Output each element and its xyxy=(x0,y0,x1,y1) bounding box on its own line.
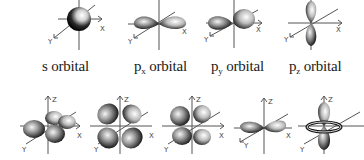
label-px-orbital: px orbital xyxy=(134,58,187,76)
svg-text:X: X xyxy=(219,132,224,140)
svg-text:X: X xyxy=(149,132,154,140)
svg-text:Y: Y xyxy=(21,146,27,154)
d-orbital-diagram-4: Z X Y xyxy=(228,92,298,156)
svg-text:Y: Y xyxy=(93,146,99,154)
svg-text:X: X xyxy=(256,26,261,34)
s-orbital-diagram: X Y xyxy=(40,0,110,52)
py-orbital-diagram: X Y xyxy=(200,0,270,52)
svg-text:X: X xyxy=(100,25,105,33)
label-pz-orbital: pz orbital xyxy=(289,58,341,76)
d-orbital-diagram-3: Z X Y xyxy=(158,92,228,156)
label-suffix: orbital xyxy=(300,58,341,74)
d-orbital-diagram-5: Z Y xyxy=(296,92,364,156)
label-s-orbital: s orbital xyxy=(42,58,89,75)
svg-text:Z: Z xyxy=(124,96,129,104)
svg-text:X: X xyxy=(286,132,291,140)
label-suffix: orbital xyxy=(48,58,89,74)
pz-orbital-diagram: X Y xyxy=(280,0,350,52)
label-suffix: orbital xyxy=(146,58,187,74)
svg-text:Y: Y xyxy=(47,38,53,46)
svg-text:Z: Z xyxy=(328,96,333,104)
svg-text:Y: Y xyxy=(243,142,249,150)
d-orbital-diagram-1: Z X Y xyxy=(14,92,84,156)
d-orbital-diagram-2: Z X Y xyxy=(86,92,156,156)
svg-text:Y: Y xyxy=(163,146,169,154)
label-py-orbital: py orbital xyxy=(211,58,264,76)
svg-text:Z: Z xyxy=(268,98,273,106)
svg-text:Y: Y xyxy=(283,36,289,44)
svg-text:Y: Y xyxy=(299,146,305,154)
svg-text:X: X xyxy=(77,132,82,140)
label-suffix: orbital xyxy=(223,58,264,74)
svg-text:Y: Y xyxy=(203,36,209,44)
svg-text:X: X xyxy=(336,26,341,34)
svg-text:Z: Z xyxy=(52,96,57,104)
svg-text:Y: Y xyxy=(127,38,133,46)
px-orbital-diagram: X Y xyxy=(120,0,190,52)
svg-text:X: X xyxy=(182,28,187,36)
svg-text:Z: Z xyxy=(196,96,201,104)
